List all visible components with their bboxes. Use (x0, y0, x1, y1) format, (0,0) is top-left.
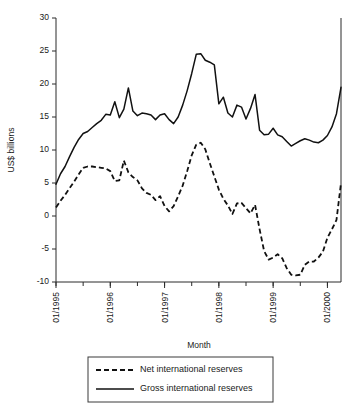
x-axis-title: Month (187, 340, 211, 350)
y-axis: -10-5051015202530 (37, 12, 56, 286)
x-tick-label: 01/1996 (105, 292, 115, 323)
y-tick-label: 25 (40, 45, 50, 55)
chart-legend: Net international reservesGross internat… (88, 357, 273, 402)
series-path-net (56, 143, 341, 276)
y-tick-label: -5 (41, 243, 49, 253)
y-axis-title: US$ billions (6, 128, 16, 173)
y-tick-label: 0 (44, 210, 49, 220)
x-axis: 01/199501/199601/199701/199801/199901/20… (51, 282, 341, 323)
y-tick-label: -10 (37, 276, 50, 286)
y-tick-label: 15 (40, 111, 50, 121)
x-tick-label: 01/1997 (160, 292, 170, 323)
x-tick-label: 01/2000 (322, 292, 332, 323)
x-tick-label: 01/1995 (51, 292, 61, 323)
y-tick-label: 10 (40, 144, 50, 154)
legend-label: Net international reserves (140, 364, 243, 374)
reserves-line-chart: -10-5051015202530 01/199501/199601/19970… (0, 0, 351, 406)
y-tick-label: 30 (40, 12, 50, 22)
series-lines (56, 54, 341, 276)
y-tick-label: 20 (40, 78, 50, 88)
chart-figure: -10-5051015202530 01/199501/199601/19970… (0, 0, 351, 406)
x-tick-label: 01/1998 (214, 292, 224, 323)
x-tick-label: 01/1999 (268, 292, 278, 323)
y-tick-label: 5 (44, 177, 49, 187)
series-path-gross (56, 54, 341, 185)
legend-label: Gross international reserves (140, 383, 253, 393)
